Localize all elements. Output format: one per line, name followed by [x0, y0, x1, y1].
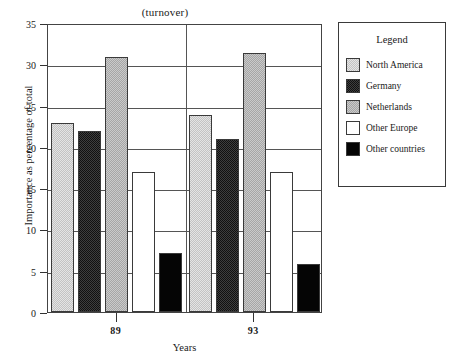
- legend-item-label: North America: [366, 60, 423, 70]
- legend-swatch-icon: [346, 58, 360, 72]
- bar-netherlands-93: [243, 53, 266, 312]
- x-tick-label-93: 93: [248, 325, 259, 336]
- y-tick-5: [40, 272, 47, 273]
- y-tick-35: [40, 24, 47, 25]
- y-tick-label-35: 35: [0, 19, 36, 30]
- legend-item-other-countries[interactable]: Other countries: [346, 138, 445, 159]
- legend-title: Legend: [339, 34, 445, 45]
- legend-swatch-icon: [346, 142, 360, 156]
- bar-other-europe-89: [132, 172, 155, 312]
- legend-item-netherlands[interactable]: Netherlands: [346, 96, 445, 117]
- bar-other-europe-93: [270, 172, 293, 312]
- x-tick-89: [116, 313, 117, 322]
- bar-north-america-93: [189, 115, 212, 312]
- y-tick-10: [40, 230, 47, 231]
- legend-swatch-icon: [346, 100, 360, 114]
- bar-germany-93: [216, 139, 239, 312]
- legend-item-germany[interactable]: Germany: [346, 75, 445, 96]
- gridline-25: [48, 108, 321, 109]
- legend: Legend North AmericaGermanyNetherlandsOt…: [338, 22, 446, 187]
- legend-swatch-icon: [346, 121, 360, 135]
- plot-area: [47, 24, 322, 313]
- bar-north-america-89: [51, 123, 74, 312]
- legend-swatch-icon: [346, 79, 360, 93]
- y-axis-label: Importance as percentage of total: [23, 36, 34, 276]
- bar-netherlands-89: [105, 57, 128, 312]
- bar-other-countries-89: [159, 253, 182, 312]
- y-tick-25: [40, 107, 47, 108]
- y-tick-15: [40, 189, 47, 190]
- legend-item-list: North AmericaGermanyNetherlandsOther Eur…: [346, 54, 445, 159]
- gridline-30: [48, 66, 321, 67]
- bar-chart-figure: (turnover) 05101520253035 Importance as …: [0, 0, 454, 360]
- y-tick-20: [40, 148, 47, 149]
- bar-other-countries-93: [297, 264, 320, 312]
- legend-item-north-america[interactable]: North America: [346, 54, 445, 75]
- y-tick-30: [40, 65, 47, 66]
- legend-item-label: Germany: [366, 81, 401, 91]
- chart-title: (turnover): [0, 6, 330, 18]
- y-tick-0: [40, 313, 47, 314]
- x-tick-label-89: 89: [110, 325, 121, 336]
- x-axis-label: Years: [47, 342, 322, 353]
- x-tick-93: [253, 313, 254, 322]
- legend-item-label: Other Europe: [366, 123, 417, 133]
- legend-item-label: Netherlands: [366, 102, 412, 112]
- legend-item-other-europe[interactable]: Other Europe: [346, 117, 445, 138]
- group-separator: [186, 25, 187, 312]
- legend-item-label: Other countries: [366, 144, 425, 154]
- bar-germany-89: [78, 131, 101, 312]
- y-tick-label-0: 0: [0, 308, 36, 319]
